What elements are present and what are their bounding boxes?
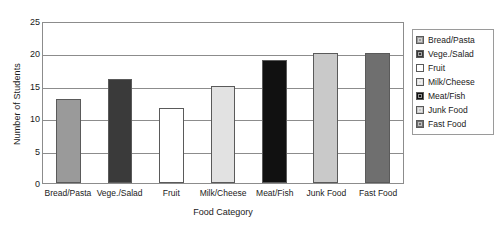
legend-swatch-icon xyxy=(416,78,424,86)
legend-swatch-icon xyxy=(416,50,424,58)
x-axis-tick-label: Meat/Fish xyxy=(249,187,301,201)
legend-label: Junk Food xyxy=(428,105,468,115)
x-axis-tick-labels: Bread/PastaVege./SaladFruitMilk/CheeseMe… xyxy=(42,187,404,201)
bar[interactable] xyxy=(159,108,184,183)
bar[interactable] xyxy=(108,79,133,183)
legend-item[interactable]: Meat/Fish xyxy=(416,89,491,103)
legend-item[interactable]: Milk/Cheese xyxy=(416,75,491,89)
bar-slot xyxy=(249,23,300,183)
x-axis-tick-label: Bread/Pasta xyxy=(42,187,94,201)
y-axis-tick-label: 15 xyxy=(24,82,40,92)
legend-label: Milk/Cheese xyxy=(428,77,475,87)
legend-item[interactable]: Junk Food xyxy=(416,103,491,117)
legend-item[interactable]: Bread/Pasta xyxy=(416,33,491,47)
bar-chart-screenshot: Number of Students 0510152025 Bread/Past… xyxy=(0,0,499,233)
x-axis-title: Food Category xyxy=(42,207,404,217)
x-axis-tick-label: Vege./Salad xyxy=(94,187,146,201)
x-axis-tick-label: Fast Food xyxy=(352,187,404,201)
plot-area xyxy=(42,22,404,184)
legend-label: Fruit xyxy=(428,63,445,73)
legend-swatch-icon xyxy=(416,106,424,114)
legend-label: Meat/Fish xyxy=(428,91,465,101)
legend-swatch-icon xyxy=(416,36,424,44)
bar[interactable] xyxy=(313,53,338,183)
legend-label: Fast Food xyxy=(428,119,466,129)
y-axis-tick-label: 20 xyxy=(24,49,40,59)
bars-group xyxy=(43,23,403,183)
bar[interactable] xyxy=(262,60,287,183)
y-axis-tick-label: 25 xyxy=(24,17,40,27)
bar-slot xyxy=(300,23,351,183)
legend-item[interactable]: Fruit xyxy=(416,61,491,75)
x-axis-tick-label: Fruit xyxy=(145,187,197,201)
legend-swatch-icon xyxy=(416,120,424,128)
legend-swatch-icon xyxy=(416,92,424,100)
y-axis-tick-labels: 0510152025 xyxy=(24,17,40,189)
x-axis-tick-label: Junk Food xyxy=(301,187,353,201)
bar[interactable] xyxy=(365,53,390,183)
bar[interactable] xyxy=(211,86,236,183)
y-axis-tick-label: 0 xyxy=(24,179,40,189)
chart-legend: Bread/PastaVege./SaladFruitMilk/CheeseMe… xyxy=(412,29,494,135)
y-axis-tick-label: 5 xyxy=(24,147,40,157)
bar-slot xyxy=(197,23,248,183)
y-axis-tick-label: 10 xyxy=(24,114,40,124)
bar[interactable] xyxy=(56,99,81,183)
legend-item[interactable]: Vege./Salad xyxy=(416,47,491,61)
bar-slot xyxy=(146,23,197,183)
bar-slot xyxy=(352,23,403,183)
legend-label: Vege./Salad xyxy=(428,49,474,59)
bar-slot xyxy=(43,23,94,183)
x-axis-tick-label: Milk/Cheese xyxy=(197,187,249,201)
legend-swatch-icon xyxy=(416,64,424,72)
bar-slot xyxy=(94,23,145,183)
legend-item[interactable]: Fast Food xyxy=(416,117,491,131)
legend-label: Bread/Pasta xyxy=(428,35,475,45)
